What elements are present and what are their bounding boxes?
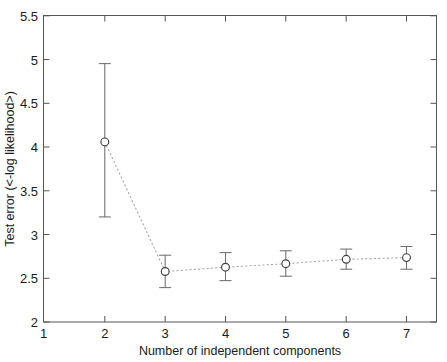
data-point bbox=[342, 255, 350, 263]
x-axis-title: Number of independent components bbox=[139, 344, 341, 358]
figure-container: 2 2.5 3 3.5 4 4.5 5 5.5 1 2 3 4 5 6 7 Nu… bbox=[0, 0, 447, 362]
y-tick-label: 5 bbox=[31, 53, 38, 68]
y-tick-label: 3 bbox=[31, 228, 38, 243]
y-axis-title: Test error (<-log likelihood>) bbox=[3, 91, 17, 247]
y-tick-label: 3.5 bbox=[20, 184, 38, 199]
x-tick-label: 1 bbox=[40, 326, 47, 341]
data-point bbox=[101, 138, 109, 146]
x-tick-label: 7 bbox=[403, 326, 410, 341]
data-point bbox=[222, 263, 230, 271]
data-point bbox=[403, 254, 411, 262]
x-tick-label: 5 bbox=[282, 326, 289, 341]
x-tick-label: 6 bbox=[343, 326, 350, 341]
x-tick-label: 2 bbox=[101, 326, 108, 341]
y-tick-label: 4 bbox=[31, 140, 38, 155]
y-tick-label: 2.5 bbox=[20, 271, 38, 286]
y-tick-label: 5.5 bbox=[20, 9, 38, 24]
x-tick-label: 4 bbox=[222, 326, 229, 341]
x-tick-label: 3 bbox=[162, 326, 169, 341]
errorbar-chart: 2 2.5 3 3.5 4 4.5 5 5.5 1 2 3 4 5 6 7 Nu… bbox=[0, 0, 447, 362]
y-tick-label: 2 bbox=[31, 315, 38, 330]
chart-background bbox=[0, 0, 447, 362]
data-point bbox=[161, 268, 169, 276]
y-tick-label: 4.5 bbox=[20, 96, 38, 111]
data-point bbox=[282, 260, 290, 268]
